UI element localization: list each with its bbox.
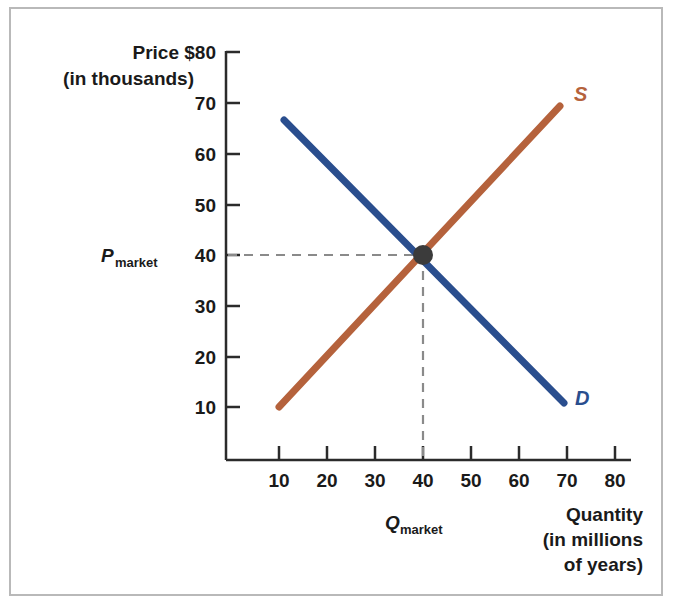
x-tick-label-10: 10 xyxy=(268,470,289,491)
supply-curve-label: S xyxy=(574,83,588,105)
quantity-market-symbol: Q xyxy=(385,512,400,533)
demand-curve-label: D xyxy=(575,387,589,409)
y-tick-label-50: 50 xyxy=(195,195,216,216)
figure-frame: $80 70 60 50 40 30 20 10 10 20 30 40 50 … xyxy=(9,7,663,596)
y-axis-ticks xyxy=(226,52,240,407)
x-tick-label-20: 20 xyxy=(316,470,337,491)
x-axis-ticks xyxy=(279,446,615,460)
x-tick-label-80: 80 xyxy=(604,470,625,491)
price-market-symbol: P xyxy=(101,245,114,266)
price-market-subscript: market xyxy=(115,255,158,270)
y-tick-label-30: 30 xyxy=(195,296,216,317)
y-axis-tick-labels: $80 70 60 50 40 30 20 10 xyxy=(184,42,216,418)
x-axis-title-line1: Quantity xyxy=(566,504,643,525)
y-tick-label-60: 60 xyxy=(195,144,216,165)
y-tick-label-20: 20 xyxy=(195,347,216,368)
y-axis-title-line1: Price xyxy=(133,42,179,63)
x-tick-label-50: 50 xyxy=(460,470,481,491)
x-tick-label-40: 40 xyxy=(412,470,433,491)
quantity-market-annotation: Q market xyxy=(385,512,443,537)
x-axis-title-line3: of years) xyxy=(564,554,643,575)
price-market-annotation: P market xyxy=(101,245,158,270)
y-tick-label-10: 10 xyxy=(195,397,216,418)
y-axis-title-line2: (in thousands) xyxy=(63,68,194,89)
x-tick-label-60: 60 xyxy=(508,470,529,491)
y-tick-label-80: $80 xyxy=(184,42,216,63)
x-axis-title-line2: (in millions xyxy=(543,529,643,550)
x-tick-label-70: 70 xyxy=(556,470,577,491)
y-axis-title: Price (in thousands) xyxy=(63,42,194,89)
equilibrium-point xyxy=(413,245,433,265)
x-axis-tick-labels: 10 20 30 40 50 60 70 80 xyxy=(268,470,625,491)
y-tick-label-40: 40 xyxy=(195,245,216,266)
x-tick-label-30: 30 xyxy=(364,470,385,491)
x-axis-title: Quantity (in millions of years) xyxy=(543,504,644,575)
y-tick-label-70: 70 xyxy=(195,93,216,114)
supply-demand-chart: $80 70 60 50 40 30 20 10 10 20 30 40 50 … xyxy=(11,9,661,594)
quantity-market-subscript: market xyxy=(400,522,443,537)
